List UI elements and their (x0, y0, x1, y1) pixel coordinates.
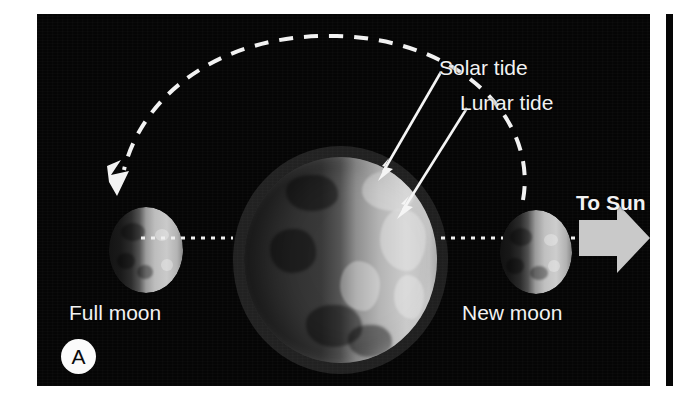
label-to-sun: To Sun (576, 192, 646, 213)
figure-root: Solar tide Lunar tide To Sun Full moon N… (0, 0, 673, 414)
label-full-moon: Full moon (69, 302, 161, 323)
panel-letter-badge: A (61, 339, 96, 374)
lunar-tide-pointer (397, 108, 467, 219)
label-lunar-tide: Lunar tide (460, 92, 553, 113)
adjacent-figure-sliver (666, 14, 673, 386)
orbit-arrowhead (107, 160, 129, 196)
diagram-panel: Solar tide Lunar tide To Sun Full moon N… (37, 14, 650, 386)
annotation-overlay (37, 14, 650, 386)
label-new-moon: New moon (462, 302, 562, 323)
label-solar-tide: Solar tide (439, 57, 528, 78)
solar-tide-arrowhead (378, 158, 393, 181)
